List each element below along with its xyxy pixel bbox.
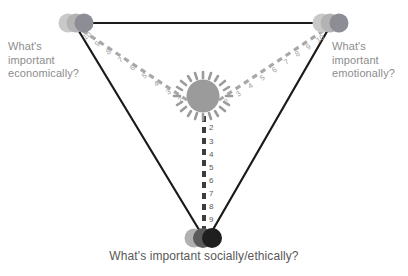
vertex-node-emotional[interactable] bbox=[313, 14, 349, 33]
edge-emotional-social bbox=[211, 28, 329, 233]
vertex-node-social[interactable] bbox=[185, 228, 223, 248]
center-hub-node[interactable] bbox=[174, 72, 232, 120]
axis-emotional-tick-8: 8 bbox=[293, 49, 301, 59]
axis-social-tick-9: 9 bbox=[209, 215, 214, 224]
axis-social-tick-8: 8 bbox=[209, 202, 214, 211]
axis-social-tick-7: 7 bbox=[209, 189, 214, 198]
axis-emotional-tick-5: 5 bbox=[258, 73, 266, 83]
axis-economic-tick-7: 7 bbox=[116, 55, 124, 65]
axis-social-tick-4: 4 bbox=[209, 150, 214, 159]
vertex-social-circle-3 bbox=[202, 228, 222, 248]
axis-emotional-ticks: 2 3 4 5 6 7 8 9 10 bbox=[222, 33, 326, 107]
axis-social-tick-2: 2 bbox=[209, 123, 214, 132]
axis-social: 2 3 4 5 6 7 8 9 10 bbox=[204, 116, 218, 236]
axis-emotional-tick-3: 3 bbox=[234, 89, 242, 99]
hub-circle[interactable] bbox=[187, 80, 220, 113]
axis-emotional-tick-9: 9 bbox=[304, 42, 312, 52]
axis-social-tick-6: 6 bbox=[209, 176, 214, 185]
vertex-emotional-circle-3 bbox=[330, 14, 349, 33]
axis-social-tick-5: 5 bbox=[209, 163, 214, 172]
diagram-canvas: 2 3 4 5 6 7 8 9 10 2 3 4 5 6 7 8 9 bbox=[0, 0, 408, 276]
vertex-node-economic[interactable] bbox=[59, 14, 94, 33]
axis-emotional-tick-4: 4 bbox=[246, 81, 254, 91]
vertex-label-social: What's important socially/ethically? bbox=[0, 250, 408, 264]
vertex-economic-circle-3 bbox=[75, 14, 94, 33]
axis-emotional-tick-7: 7 bbox=[282, 57, 290, 67]
axis-economic-tick-3: 3 bbox=[164, 87, 172, 97]
axis-social-tick-3: 3 bbox=[209, 137, 214, 146]
axis-emotional: 2 3 4 5 6 7 8 9 10 bbox=[219, 31, 326, 107]
axis-social-ticks: 2 3 4 5 6 7 8 9 10 bbox=[209, 123, 218, 236]
axis-economic-tick-5: 5 bbox=[140, 71, 148, 81]
vertex-label-emotional: What's important emotionally? bbox=[332, 40, 408, 81]
axis-emotional-tick-6: 6 bbox=[270, 65, 278, 75]
vertex-label-economic: What's important economically? bbox=[8, 40, 104, 81]
